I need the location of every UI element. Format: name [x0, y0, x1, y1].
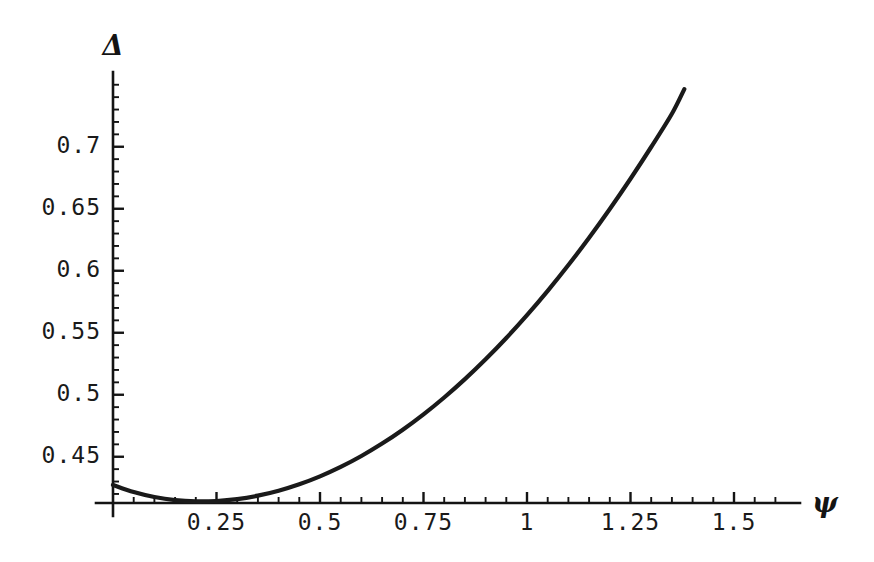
- y-axis-major-ticks: [113, 147, 124, 457]
- x-tick-label: 1: [520, 509, 535, 535]
- y-axis: 0.450.50.550.60.650.7: [42, 72, 124, 516]
- y-axis-tick-labels: 0.450.50.550.60.650.7: [42, 132, 101, 468]
- x-tick-label: 0.75: [394, 509, 453, 535]
- x-tick-label: 1.25: [601, 509, 660, 535]
- x-axis: 0.250.50.7511.251.5: [96, 492, 800, 535]
- x-axis-tick-labels: 0.250.50.7511.251.5: [187, 509, 756, 535]
- x-axis-major-ticks: [217, 492, 735, 503]
- chart-figure: 0.250.50.7511.251.5 0.450.50.550.60.650.…: [0, 0, 874, 562]
- data-curve: [113, 89, 684, 501]
- x-tick-label: 1.5: [712, 509, 757, 535]
- y-tick-label: 0.45: [42, 442, 101, 468]
- y-tick-label: 0.6: [56, 256, 101, 282]
- y-axis-title-delta: Δ: [101, 30, 124, 61]
- x-tick-label: 0.25: [187, 509, 246, 535]
- plot-canvas: 0.250.50.7511.251.5 0.450.50.550.60.650.…: [0, 0, 874, 562]
- y-tick-label: 0.7: [56, 132, 101, 158]
- x-tick-label: 0.5: [298, 509, 343, 535]
- y-tick-label: 0.5: [56, 380, 101, 406]
- y-tick-label: 0.65: [42, 194, 101, 220]
- x-axis-title-psi: ψ: [812, 487, 839, 518]
- y-tick-label: 0.55: [42, 318, 101, 344]
